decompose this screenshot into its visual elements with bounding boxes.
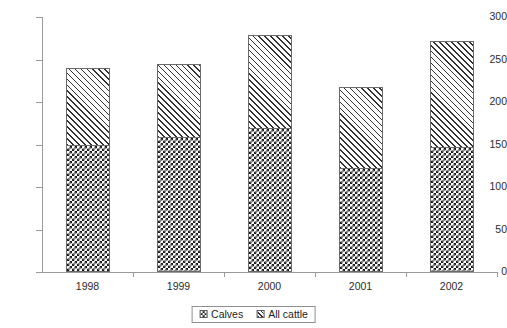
x-axis-tick-label: 2002 [417, 281, 487, 292]
x-axis-tick [224, 272, 225, 277]
y-axis-tick-label: 250 [475, 54, 507, 65]
bar-segment-calves[interactable] [66, 145, 110, 273]
y-axis-tick [36, 230, 42, 231]
bar-group[interactable] [248, 17, 292, 272]
x-axis-tick-label: 2001 [326, 281, 396, 292]
x-axis-tick [497, 272, 498, 277]
y-axis-tick-label: 150 [475, 139, 507, 150]
bar-segment-all-cattle[interactable] [339, 87, 383, 170]
legend-label-calves: Calves [211, 309, 243, 320]
stacked-bar-chart: 050100150200250300 19981999200020012002 … [0, 0, 507, 328]
x-axis-tick [133, 272, 134, 277]
y-axis-tick [36, 187, 42, 188]
y-axis-tick-label: 300 [475, 11, 507, 22]
bar-segment-calves[interactable] [430, 147, 474, 272]
legend-item-calves: Calves [199, 309, 243, 320]
bar-segment-all-cattle[interactable] [430, 41, 474, 148]
bar-segment-calves[interactable] [157, 137, 201, 272]
chart-legend: Calves All cattle [191, 306, 316, 324]
legend-label-all-cattle: All cattle [268, 309, 308, 320]
x-axis-tick-label: 2000 [235, 281, 305, 292]
bar-group[interactable] [430, 17, 474, 272]
bar-group[interactable] [339, 17, 383, 272]
x-axis-line [42, 272, 497, 273]
x-axis-tick-label: 1998 [53, 281, 123, 292]
y-axis-tick [36, 145, 42, 146]
y-axis-tick [36, 17, 42, 18]
x-axis-tick-label: 1999 [144, 281, 214, 292]
bar-segment-all-cattle[interactable] [66, 68, 110, 146]
y-axis-tick-label: 50 [475, 224, 507, 235]
y-axis-line [42, 17, 43, 273]
x-axis-tick [315, 272, 316, 277]
bar-segment-calves[interactable] [248, 128, 292, 272]
y-axis-tick [36, 60, 42, 61]
bar-segment-calves[interactable] [339, 168, 383, 272]
y-axis-tick [36, 102, 42, 103]
checkerboard-swatch-icon [199, 310, 207, 318]
bar-group[interactable] [157, 17, 201, 272]
diagonal-hatch-swatch-icon [256, 310, 264, 318]
bar-segment-all-cattle[interactable] [157, 64, 201, 138]
legend-item-all-cattle: All cattle [256, 309, 308, 320]
bar-group[interactable] [66, 17, 110, 272]
y-axis-tick-label: 200 [475, 96, 507, 107]
x-axis-tick [406, 272, 407, 277]
bar-segment-all-cattle[interactable] [248, 35, 292, 130]
y-axis-tick-label: 100 [475, 181, 507, 192]
